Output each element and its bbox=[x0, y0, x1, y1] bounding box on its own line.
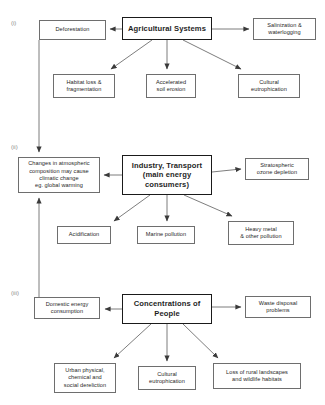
node-rural-landscape-loss: Loss of rural landscapes and wildlife ha… bbox=[213, 363, 301, 389]
environmental-impact-diagram: (i) (ii) (iii) Deforestation Agricultura… bbox=[0, 0, 325, 405]
node-stratospheric-ozone-depletion: Stratospheric ozone depletion bbox=[245, 158, 309, 180]
node-atmospheric-composition-change: Changes in atmospheric composition may c… bbox=[18, 157, 100, 193]
section-label-i: (i) bbox=[11, 20, 16, 26]
connector-lines bbox=[0, 0, 325, 405]
node-acidification: Acidification bbox=[57, 226, 111, 244]
node-cultural-eutrophication-i: Cultural eutrophication bbox=[238, 74, 300, 98]
node-cultural-eutrophication-iii: Cultural eutrophication bbox=[138, 366, 196, 390]
node-deforestation: Deforestation bbox=[39, 20, 106, 40]
hub-industry-transport: Industry, Transport (main energy consume… bbox=[122, 155, 212, 195]
hub-concentrations-of-people: Concentrations of People bbox=[122, 294, 212, 324]
section-label-iii: (iii) bbox=[11, 290, 19, 296]
node-marine-pollution: Marine pollution bbox=[137, 226, 195, 244]
node-salinization-waterlogging: Salinization & waterlogging bbox=[253, 18, 316, 40]
node-waste-disposal-problems: Waste disposal problems bbox=[245, 296, 311, 318]
node-heavy-metal-pollution: Heavy metal & other pollution bbox=[228, 221, 294, 245]
section-label-ii: (ii) bbox=[11, 144, 18, 150]
node-domestic-energy-consumption: Domestic energy consumption bbox=[34, 297, 100, 319]
hub-agricultural-systems: Agricultural Systems bbox=[122, 17, 212, 40]
node-habitat-loss-fragmentation: Habitat loss & fragmentation bbox=[53, 74, 115, 98]
node-accelerated-soil-erosion: Accelerated soil erosion bbox=[146, 74, 196, 98]
node-urban-dereliction: Urban physical, chemical and social dere… bbox=[54, 363, 116, 393]
